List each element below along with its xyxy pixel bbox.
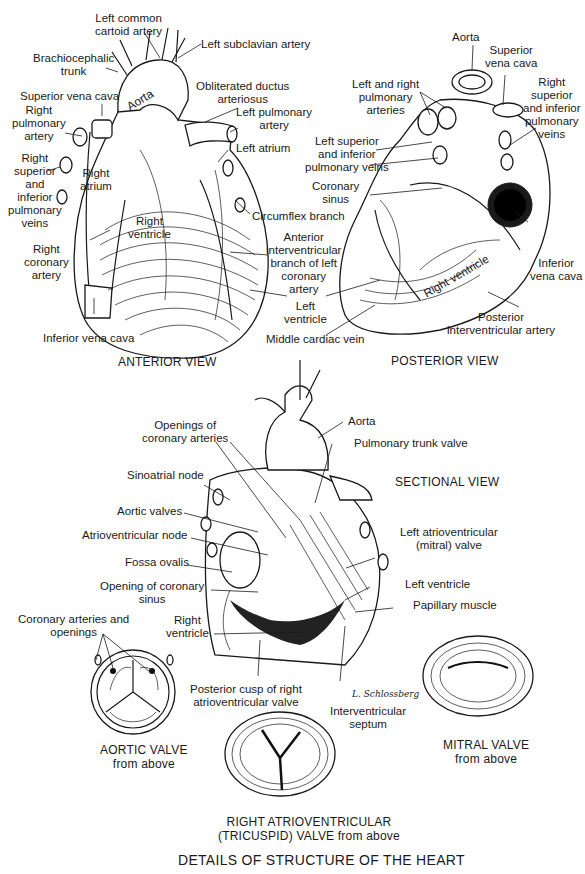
tricuspid-valve-drawing [225, 712, 335, 796]
label-left-atrium: Left atrium [236, 142, 290, 155]
label-right-pulmonary-veins: Right superior and inferior pulmonary ve… [8, 152, 62, 230]
label-left-pulmonary-veins: Left superior and inferior pulmonary vei… [305, 135, 389, 174]
caption-posterior-view: POSTERIOR VIEW [391, 354, 498, 368]
label-circumflex-branch: Circumflex branch [252, 210, 345, 223]
label-pulmonary-trunk-valve: Pulmonary trunk valve [354, 437, 468, 450]
label-interventricular-septum: Interventricular septum [330, 705, 406, 731]
label-superior-vena-cava-posterior: Superior vena cava [485, 44, 537, 70]
label-left-pulmonary-artery: Left pulmonary artery [236, 106, 312, 132]
label-left-ventricle-anterior: Left ventricle [284, 300, 327, 326]
label-aorta-sectional: Aorta [348, 415, 376, 428]
page-title: DETAILS OF STRUCTURE OF THE HEART [178, 852, 465, 868]
label-sinoatrial-node: Sinoatrial node [127, 469, 204, 482]
label-right-ventricle-sectional: Right ventricle [166, 614, 209, 640]
label-inferior-vena-cava-posterior: Inferior vena cava [530, 257, 582, 283]
label-atrioventricular-node: Atrioventricular node [82, 529, 187, 542]
label-left-subclavian-artery: Left subclavian artery [201, 38, 310, 51]
label-opening-coronary-sinus: Opening of coronary sinus [100, 580, 204, 606]
label-inferior-vena-cava-anterior: Inferior vena cava [43, 332, 134, 345]
label-left-ventricle-sectional: Left ventricle [405, 578, 470, 591]
label-right-pulmonary-veins-posterior: Right superior and inferior pulmonary ve… [523, 76, 581, 141]
artist-signature: L. Schlossberg [352, 688, 419, 701]
label-coronary-sinus: Coronary sinus [312, 180, 359, 206]
label-obliterated-ductus-arteriosus: Obliterated ductus arteriosus [196, 80, 289, 106]
caption-anterior-view: ANTERIOR VIEW [118, 355, 217, 369]
label-aortic-valves: Aortic valves [117, 505, 182, 518]
label-middle-cardiac-vein: Middle cardiac vein [266, 333, 364, 346]
label-posterior-cusp: Posterior cusp of right atrioventricular… [190, 683, 302, 709]
caption-mitral-valve: MITRAL VALVE from above [443, 738, 529, 766]
label-openings-coronary-arteries: Openings of coronary arteries [142, 419, 228, 445]
label-posterior-interventricular-artery: Posterior interventricular artery [447, 311, 555, 337]
label-fossa-ovalis: Fossa ovalis [125, 556, 189, 569]
label-left-atrioventricular-mitral-valve: Left atrioventricular (mitral) valve [400, 526, 498, 552]
label-left-common-carotid-artery: Left common cartoid artery [95, 12, 162, 38]
label-left-right-pulmonary-arteries: Left and right pulmonary arteries [352, 78, 419, 117]
label-anterior-interventricular-branch: Anterior interventricular branch of left… [266, 231, 341, 296]
sectional-heart-drawing [201, 360, 388, 665]
label-aorta-posterior: Aorta [452, 31, 480, 44]
caption-sectional-view: SECTIONAL VIEW [395, 475, 499, 489]
caption-aortic-valve: AORTIC VALVE from above [100, 743, 188, 771]
caption-tricuspid-valve: RIGHT ATRIOVENTRICULAR (TRICUSPID) VALVE… [218, 815, 400, 843]
label-right-pulmonary-artery: Right pulmonary artery [12, 104, 66, 143]
label-right-coronary-artery: Right coronary artery [24, 243, 69, 282]
label-coronary-arteries-openings: Coronary arteries and openings [18, 613, 129, 639]
label-right-atrium: Right atrium [80, 167, 112, 193]
label-right-ventricle-anterior: Right ventricle [128, 215, 171, 241]
label-brachiocephalic-trunk: Brachiocephalic trunk [33, 52, 114, 78]
label-papillary-muscle: Papillary muscle [413, 599, 497, 612]
aortic-valve-drawing [91, 650, 175, 734]
mitral-valve-drawing [423, 636, 533, 716]
label-superior-vena-cava-anterior: Superior vena cava [20, 90, 119, 103]
